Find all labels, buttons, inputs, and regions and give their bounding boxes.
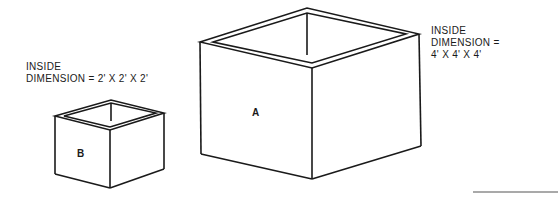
box-b-caption-line1: INSIDE (26, 61, 148, 73)
box-a-caption-line1: INSIDE (431, 25, 500, 37)
box-b-label: B (77, 148, 84, 159)
box-b (55, 100, 164, 188)
box-a-caption-line2: DIMENSION = (431, 37, 500, 49)
box-a-caption: INSIDE DIMENSION = 4' X 4' X 4' (431, 25, 500, 61)
box-a-caption-line3: 4' X 4' X 4' (431, 49, 500, 61)
box-b-caption-line2: DIMENSION = 2' X 2' X 2' (26, 73, 148, 85)
box-a-label: A (252, 107, 259, 118)
box-a (200, 8, 421, 179)
box-b-caption: INSIDE DIMENSION = 2' X 2' X 2' (26, 61, 148, 85)
